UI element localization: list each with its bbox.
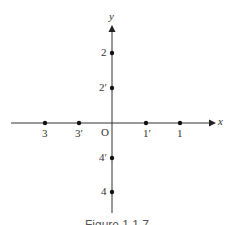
label-1: 1 (177, 128, 183, 139)
label-3-prime: 3′ (75, 128, 83, 139)
point-3-prime (77, 121, 81, 125)
point-1 (178, 121, 182, 125)
label-1-prime: 1′ (143, 128, 151, 139)
point-4-prime (110, 156, 114, 160)
label-4-prime: 4′ (99, 152, 107, 163)
label-4: 4 (101, 186, 107, 197)
point-2 (110, 51, 114, 55)
y-axis-label: y (109, 11, 114, 22)
x-axis-label: x (218, 116, 223, 127)
point-2-prime (110, 86, 114, 90)
x-axis-arrow-icon (209, 120, 216, 127)
label-2-prime: 2′ (99, 82, 107, 93)
label-2: 2 (101, 47, 107, 58)
point-1-prime (144, 121, 148, 125)
origin-label: O (101, 127, 109, 138)
y-axis-arrow-icon (109, 25, 116, 32)
figure-caption: Figure 1.1.7 (0, 218, 234, 225)
point-4 (110, 190, 114, 194)
axes-canvas (0, 0, 234, 225)
point-3 (43, 121, 47, 125)
label-3: 3 (42, 128, 48, 139)
